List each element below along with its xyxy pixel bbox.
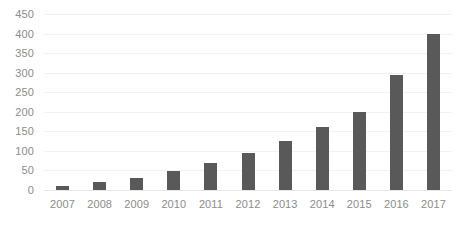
x-tick-slot: 2011 xyxy=(192,194,229,214)
bar[interactable] xyxy=(316,127,329,190)
x-tick-label: 2014 xyxy=(310,198,335,210)
y-tick-label: 250 xyxy=(15,87,34,98)
x-tick-slot: 2012 xyxy=(229,194,266,214)
bar[interactable] xyxy=(242,153,255,190)
x-tick-label: 2010 xyxy=(161,198,186,210)
bar[interactable] xyxy=(204,163,217,190)
x-tick-label: 2016 xyxy=(384,198,409,210)
y-axis: 050100150200250300350400450 xyxy=(0,0,40,228)
x-tick-slot: 2015 xyxy=(341,194,378,214)
bar-slot xyxy=(415,14,452,190)
bar[interactable] xyxy=(279,141,292,190)
x-tick-slot: 2010 xyxy=(155,194,192,214)
y-tick-label: 150 xyxy=(15,126,34,137)
x-tick-label: 2007 xyxy=(50,198,75,210)
bar-slot xyxy=(341,14,378,190)
y-tick-label: 400 xyxy=(15,28,34,39)
bar-slot xyxy=(378,14,415,190)
y-tick-label: 350 xyxy=(15,48,34,59)
x-tick-slot: 2017 xyxy=(415,194,452,214)
bar-slot xyxy=(81,14,118,190)
bar[interactable] xyxy=(390,75,403,190)
x-tick-label: 2011 xyxy=(199,198,223,210)
bar-slot xyxy=(229,14,266,190)
x-tick-label: 2009 xyxy=(124,198,149,210)
bar-slot xyxy=(155,14,192,190)
bar[interactable] xyxy=(56,186,69,190)
bar-slot xyxy=(192,14,229,190)
bar-chart: 050100150200250300350400450 200720082009… xyxy=(0,0,459,228)
y-tick-label: 50 xyxy=(22,165,34,176)
x-tick-slot: 2009 xyxy=(118,194,155,214)
bar-slot xyxy=(118,14,155,190)
bar[interactable] xyxy=(167,171,180,190)
x-tick-label: 2017 xyxy=(421,198,446,210)
x-axis: 2007200820092010201120122013201420152016… xyxy=(44,194,452,214)
y-tick-label: 200 xyxy=(15,106,34,117)
x-tick-label: 2015 xyxy=(347,198,372,210)
bar[interactable] xyxy=(93,182,106,190)
x-tick-slot: 2013 xyxy=(267,194,304,214)
bar[interactable] xyxy=(353,112,366,190)
y-tick-label: 450 xyxy=(15,9,34,20)
bar-slot xyxy=(44,14,81,190)
x-tick-slot: 2016 xyxy=(378,194,415,214)
x-tick-label: 2008 xyxy=(87,198,112,210)
y-tick-label: 100 xyxy=(15,145,34,156)
y-tick-label: 300 xyxy=(15,67,34,78)
y-tick-label: 0 xyxy=(28,185,34,196)
x-tick-slot: 2007 xyxy=(44,194,81,214)
bar-slot xyxy=(304,14,341,190)
x-tick-slot: 2008 xyxy=(81,194,118,214)
x-tick-slot: 2014 xyxy=(304,194,341,214)
bars-container xyxy=(44,14,452,190)
bar-slot xyxy=(267,14,304,190)
bar[interactable] xyxy=(130,178,143,190)
x-tick-label: 2012 xyxy=(236,198,261,210)
x-tick-label: 2013 xyxy=(273,198,298,210)
gridline xyxy=(44,190,452,191)
bar[interactable] xyxy=(427,34,440,190)
